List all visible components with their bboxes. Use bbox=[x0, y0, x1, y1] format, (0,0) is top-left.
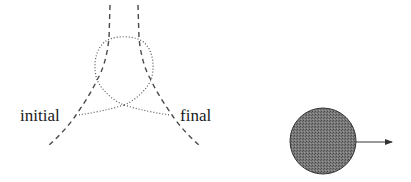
right-diagram bbox=[290, 108, 392, 174]
left-diagram: initial final bbox=[20, 5, 211, 146]
label-initial: initial bbox=[20, 106, 60, 125]
diagram-canvas: initial final bbox=[0, 0, 411, 182]
shaded-ball bbox=[290, 108, 356, 174]
label-final: final bbox=[180, 106, 211, 125]
dotted-line-final bbox=[124, 105, 170, 115]
dotted-line-initial bbox=[78, 105, 124, 115]
dotted-loop bbox=[95, 37, 153, 105]
